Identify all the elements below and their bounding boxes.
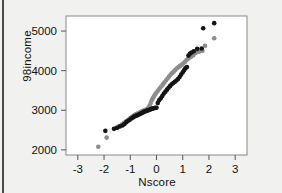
y-tick-label: 3000: [31, 104, 57, 116]
figure-canvas: -3-2-10123 2000300040005000 98income Nsc…: [0, 0, 282, 193]
data-point: [195, 47, 200, 52]
data-point: [201, 26, 206, 31]
data-point: [96, 144, 101, 149]
y-axis-label: 98income: [21, 30, 33, 81]
scatter-plot: -3-2-10123 2000300040005000: [0, 0, 282, 193]
data-point: [185, 65, 190, 70]
data-point: [104, 135, 109, 140]
plot-area-box: [66, 16, 247, 155]
data-point: [212, 21, 217, 26]
x-axis-label: Nscore: [138, 176, 176, 188]
data-point: [212, 36, 217, 41]
x-axis-label-wrap: Nscore: [66, 172, 248, 190]
data-point: [154, 106, 159, 111]
y-tick-label: 2000: [31, 144, 57, 156]
data-point: [103, 129, 108, 134]
y-axis-label-wrap: 98income: [17, 16, 37, 96]
data-point: [199, 46, 204, 51]
